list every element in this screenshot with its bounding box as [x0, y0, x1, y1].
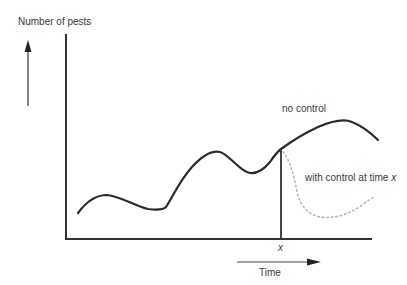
pest-population-diagram	[0, 0, 407, 285]
y-axis-label: Number of pests	[18, 17, 91, 27]
time-direction-arrow	[237, 259, 321, 266]
no-control-label: no control	[282, 104, 326, 114]
with-control-label-var: x	[391, 172, 396, 183]
with-control-curve	[283, 152, 374, 217]
x-marker-label: x	[278, 243, 283, 253]
y-direction-arrow	[25, 40, 32, 106]
with-control-label-text: with control at time	[305, 172, 391, 183]
no-control-curve	[78, 121, 378, 213]
x-axis-label: Time	[259, 268, 281, 278]
with-control-label: with control at time x	[305, 173, 396, 183]
